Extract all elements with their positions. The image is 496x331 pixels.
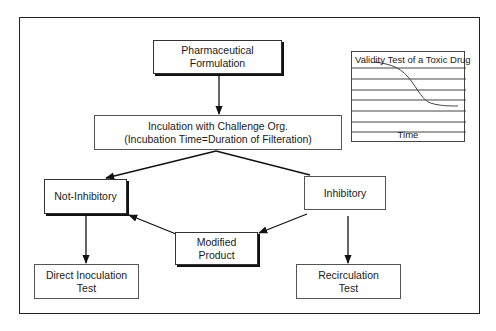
node-label-line2: Test <box>46 282 127 295</box>
arrow-inhibitory-to-modified <box>259 214 307 233</box>
arrow-modified-to-not-inhibitory <box>129 215 176 234</box>
node-label-line2: Test <box>318 282 379 295</box>
node-label-line2: Product <box>197 249 237 262</box>
node-label-line1: Direct Inoculation <box>46 269 127 282</box>
node-recirculation-test: Recirculation Test <box>296 264 401 299</box>
node-not-inhibitory: Not-Inhibitory <box>44 179 127 214</box>
node-label-line1: Recirculation <box>318 269 379 282</box>
node-direct-inoculation-test: Direct Inoculation Test <box>34 264 139 299</box>
chart-x-label: Time <box>352 129 464 140</box>
node-label: Inhibitory <box>324 187 367 200</box>
node-inhibitory: Inhibitory <box>304 176 386 210</box>
node-label-line2: Formulation <box>181 57 253 70</box>
node-incubation: Inculation with Challenge Org. (Incubati… <box>94 115 342 150</box>
node-modified-product: Modified Product <box>175 232 258 265</box>
node-label-line1: Modified <box>197 236 237 249</box>
inset-chart: Validity Test of a Toxic Drug Time <box>351 51 465 142</box>
arrow-incubation-to-not-inhibitory <box>106 151 216 178</box>
chart-curve <box>374 62 458 106</box>
node-label-line2: (Incubation Time=Duration of Filteration… <box>124 133 312 146</box>
chart-title: Validity Test of a Toxic Drug <box>355 54 471 65</box>
node-label-line1: Inculation with Challenge Org. <box>124 120 312 133</box>
node-label-line1: Pharmaceutical <box>181 44 253 57</box>
node-pharmaceutical-formulation: Pharmaceutical Formulation <box>153 40 282 74</box>
line-incubation-to-inhibitory <box>216 151 310 175</box>
node-label: Not-Inhibitory <box>54 190 116 203</box>
